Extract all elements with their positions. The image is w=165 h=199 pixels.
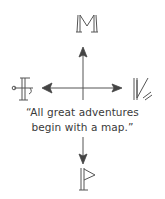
west-glyph-icon — [12, 78, 33, 100]
north-arrow-icon — [79, 47, 87, 100]
north-glyph-icon — [76, 15, 98, 32]
quote-line-1: “All great adventures — [0, 105, 165, 119]
east-west-axis-icon — [42, 83, 122, 93]
compass-drawing — [0, 0, 165, 199]
compass-sketch: “All great adventures begin with a map.” — [0, 0, 165, 199]
east-glyph-icon — [134, 78, 152, 100]
quote-line-2: begin with a map.” — [0, 120, 165, 134]
south-flag-glyph-icon — [79, 168, 95, 190]
south-arrow-icon — [79, 137, 87, 164]
